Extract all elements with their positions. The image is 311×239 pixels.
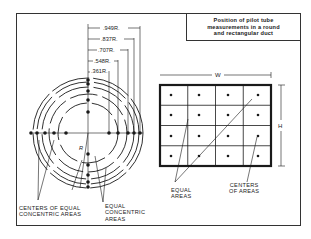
height-label: H xyxy=(278,123,282,129)
width-label: W xyxy=(215,72,221,78)
diagram-canvas: .949R. .837R. .707R. .548R. .361R. R W H xyxy=(0,0,311,239)
label-line: OF AREAS xyxy=(229,188,259,194)
radius-label-548: .548R. xyxy=(94,58,111,64)
round-duct-points xyxy=(29,78,142,189)
radius-label-837: .837R. xyxy=(101,36,118,42)
label-equal-concentric-areas: EQUAL CONCENTRIC AREAS xyxy=(105,203,145,222)
radius-label-949: .949R. xyxy=(103,25,120,31)
radius-label-361: .361R. xyxy=(91,68,108,74)
label-line: AREAS xyxy=(171,193,191,199)
label-equal-areas: EQUAL AREAS xyxy=(171,187,191,200)
label-line: AREAS xyxy=(105,216,145,222)
label-line: CONCENTRIC AREAS xyxy=(19,211,81,217)
label-centers-equal-areas: CENTERS OF EQUAL CONCENTRIC AREAS xyxy=(19,205,81,218)
radius-label-707: .707R. xyxy=(98,47,115,53)
label-centers-of-areas: CENTERS OF AREAS xyxy=(229,182,259,195)
rect-duct-diagram xyxy=(160,72,285,182)
label-line: CONCENTRIC xyxy=(105,209,145,215)
radius-symbol-r: R xyxy=(79,145,83,151)
